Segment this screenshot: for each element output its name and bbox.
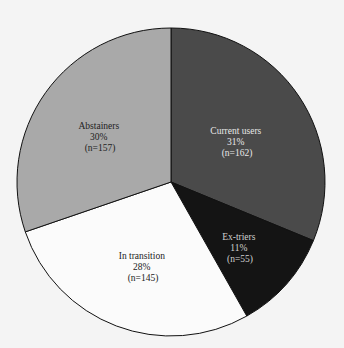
pie-chart: Current users 31% (n=162) Ex-triers 11% … [0,0,344,348]
pie-slices [17,28,325,336]
